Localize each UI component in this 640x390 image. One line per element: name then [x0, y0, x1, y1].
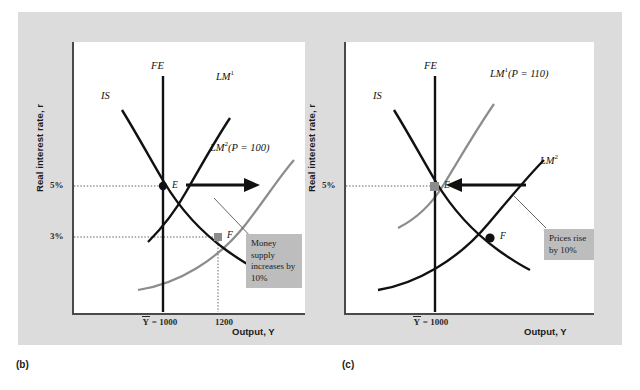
- panel-c-label-lm2: LM2: [540, 153, 558, 166]
- panel-b-point-label-f: F: [227, 230, 233, 240]
- panel-c-label-fe: FE: [424, 60, 437, 71]
- panel-b-point-f: [214, 233, 222, 241]
- panel-b: Real interest rate, r Output, Y 5% 3% YY…: [18, 12, 318, 345]
- panel-b-label-lm2: LM2(P = 100): [210, 140, 269, 153]
- figure-background-band: Real interest rate, r Output, Y 5% 3% YY…: [18, 12, 622, 345]
- panel-b-label-lm1: LM1: [216, 69, 234, 82]
- panel-b-letter: (b): [16, 359, 29, 370]
- panel-c-curve-lm1: [398, 104, 494, 228]
- panel-b-curve-lm1: [148, 118, 230, 242]
- panel-c-letter: (c): [342, 359, 354, 370]
- panel-b-shift-arrow: [186, 178, 260, 192]
- panel-b-curves-svg: [18, 12, 318, 345]
- panel-c-callout: Prices rise by 10%: [544, 229, 594, 260]
- panel-b-point-label-e: E: [172, 180, 178, 190]
- panel-c-point-label-f: F: [500, 231, 506, 241]
- figure-root: Real interest rate, r Output, Y 5% 3% YY…: [0, 0, 640, 390]
- panel-c-point-e: [430, 182, 439, 191]
- panel-c: Real interest rate, r Output, Y 5% YY = …: [318, 12, 622, 345]
- panel-b-label-fe: FE: [151, 60, 164, 71]
- panel-c-callout-leader: [514, 196, 546, 228]
- panel-c-point-f: [485, 233, 494, 242]
- panel-c-label-is: IS: [373, 90, 382, 101]
- panel-c-point-label-e: E: [444, 180, 450, 190]
- panel-b-point-e: [159, 182, 167, 190]
- panel-b-callout: Money supply increases by 10%: [246, 234, 302, 288]
- panel-c-y-axis-title: Real interest rate, r: [306, 104, 317, 192]
- panel-c-shift-arrow: [446, 178, 526, 192]
- panel-b-curve-is: [122, 110, 258, 270]
- panel-b-label-is: IS: [101, 90, 110, 101]
- panel-c-label-lm1: LM1(P = 110): [490, 66, 549, 79]
- panel-c-curves-svg: [318, 12, 622, 345]
